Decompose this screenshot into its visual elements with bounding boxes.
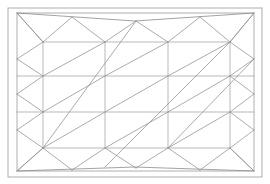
right-zigzag-group — [230, 42, 254, 148]
bottom-fan-brace-8 — [230, 148, 254, 171]
bottom-fan-brace-5 — [136, 148, 168, 168]
top-chord-line — [17, 13, 254, 21]
cell-diagonal-r1c2 — [105, 42, 168, 76]
outer-frame-group — [8, 8, 262, 177]
left-zigzag-2 — [17, 59, 43, 76]
figure-root: Triangulated wireframe mesh panel Rectan… — [0, 0, 270, 184]
top-fan-brace-1 — [17, 13, 43, 42]
cell-diagonal-r1c1 — [43, 42, 105, 76]
cell-diagonal-r1c3 — [168, 42, 230, 76]
top-fan-brace-8 — [230, 13, 254, 42]
bottom-fan-brace-3 — [72, 148, 105, 170]
right-zigzag-3 — [230, 76, 254, 94]
left-zigzag-5 — [17, 112, 43, 130]
right-zigzag-1 — [230, 42, 254, 59]
left-zigzag-4 — [17, 94, 43, 112]
right-zigzag-2 — [230, 59, 254, 76]
bottom-fan-brace-7 — [200, 148, 230, 170]
top-fan-brace-5 — [136, 21, 168, 42]
top-fan-brace-4 — [105, 21, 136, 42]
chord-group — [17, 13, 254, 171]
top-fan-brace-2 — [43, 17, 72, 42]
right-zigzag-5 — [230, 112, 254, 130]
right-zigzag-6 — [230, 130, 254, 148]
bottom-fan-brace-6 — [168, 148, 200, 170]
cell-diagonal-group — [43, 42, 230, 148]
top-fan-brace-7 — [200, 17, 230, 42]
bottom-fan-brace-2 — [43, 148, 72, 170]
left-zigzag-1 — [17, 42, 43, 59]
top-fan-group — [17, 13, 254, 42]
cell-diagonal-r2c2 — [105, 76, 168, 112]
cell-diagonal-r3c1 — [43, 112, 105, 148]
left-zigzag-6 — [17, 130, 43, 148]
wireframe-mesh-diagram: Triangulated wireframe mesh panel Rectan… — [0, 0, 270, 184]
cell-diagonal-r2c1 — [43, 76, 105, 112]
outer-frame-rect — [8, 8, 262, 177]
cell-diagonal-r3c3 — [168, 112, 230, 148]
cell-diagonal-r3c2 — [105, 112, 168, 148]
left-zigzag-3 — [17, 76, 43, 94]
bottom-fan-group — [17, 148, 254, 171]
inner-frame-group — [17, 13, 254, 171]
corner-brace-group — [17, 13, 254, 171]
top-fan-brace-3 — [72, 17, 105, 42]
right-zigzag-4 — [230, 94, 254, 112]
left-zigzag-group — [17, 42, 43, 148]
long-diagonal-lower-left — [43, 21, 136, 148]
bottom-fan-brace-1 — [17, 148, 43, 171]
top-fan-brace-6 — [168, 17, 200, 42]
